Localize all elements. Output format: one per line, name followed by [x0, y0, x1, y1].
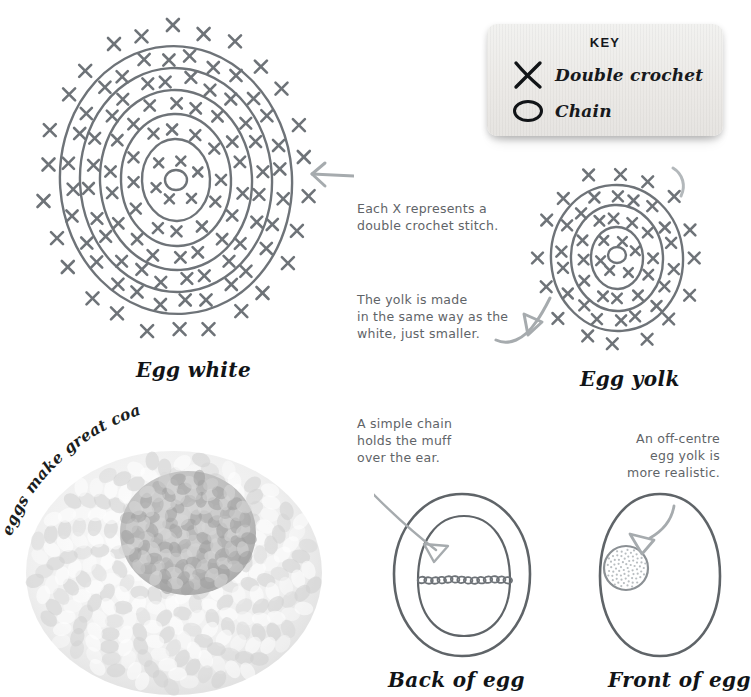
note-stitch-meaning: Each X represents a double crochet stitc… [357, 200, 525, 234]
egg-white-chart [6, 4, 354, 354]
cross-x-icon [507, 60, 549, 90]
note-chain-muff: A simple chain holds the muff over the e… [357, 415, 527, 466]
key-item-chain: Chain [507, 96, 612, 126]
key-legend-box: KEY Double crochet Chain [487, 24, 723, 136]
back-of-egg-title: Back of egg [388, 668, 525, 692]
egg-yolk-title: Egg yolk [580, 367, 680, 391]
key-label-chain: Chain [555, 101, 612, 121]
front-of-egg-title: Front of egg [608, 668, 751, 692]
key-item-double-crochet: Double crochet [507, 60, 703, 90]
back-of-egg-chart [374, 488, 552, 664]
key-title: KEY [487, 35, 723, 50]
crocheted-egg-coaster-photo [18, 425, 336, 697]
egg-white-title: Egg white [136, 358, 251, 382]
key-label-double-crochet: Double crochet [555, 65, 703, 85]
yolk-stipple-texture [607, 549, 647, 588]
oval-chain-icon [507, 96, 549, 126]
note-yolk-method: The yolk is made in the same way as the … [357, 291, 533, 342]
chain-stitch-row [417, 576, 512, 585]
front-of-egg-chart [586, 488, 736, 664]
front-of-egg-pointer-arrow [630, 506, 674, 554]
egg-white-pointer-arrow [312, 163, 354, 186]
egg-white-rings [51, 38, 301, 322]
front-of-egg-outline [600, 494, 720, 656]
note-offcentre-yolk: An off-centre egg yolk is more realistic… [584, 430, 720, 481]
